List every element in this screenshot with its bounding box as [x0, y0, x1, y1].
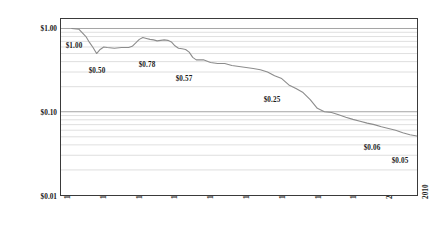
data-point-annotation: $0.05	[392, 157, 409, 165]
x-tick-label: 2010	[421, 184, 430, 199]
chart-root: PRICE (LOG) $1.00$0.10$0.01 191019201930…	[0, 0, 443, 229]
data-point-annotation: $1.00	[66, 42, 83, 50]
data-point-annotation: $0.78	[139, 61, 156, 69]
data-point-annotation: $0.25	[264, 96, 281, 104]
plot-area	[60, 18, 418, 196]
data-point-annotation: $0.50	[89, 67, 106, 75]
data-series-line	[61, 19, 417, 195]
data-point-annotation: $0.57	[176, 75, 193, 83]
data-point-annotation: $0.06	[364, 144, 381, 152]
